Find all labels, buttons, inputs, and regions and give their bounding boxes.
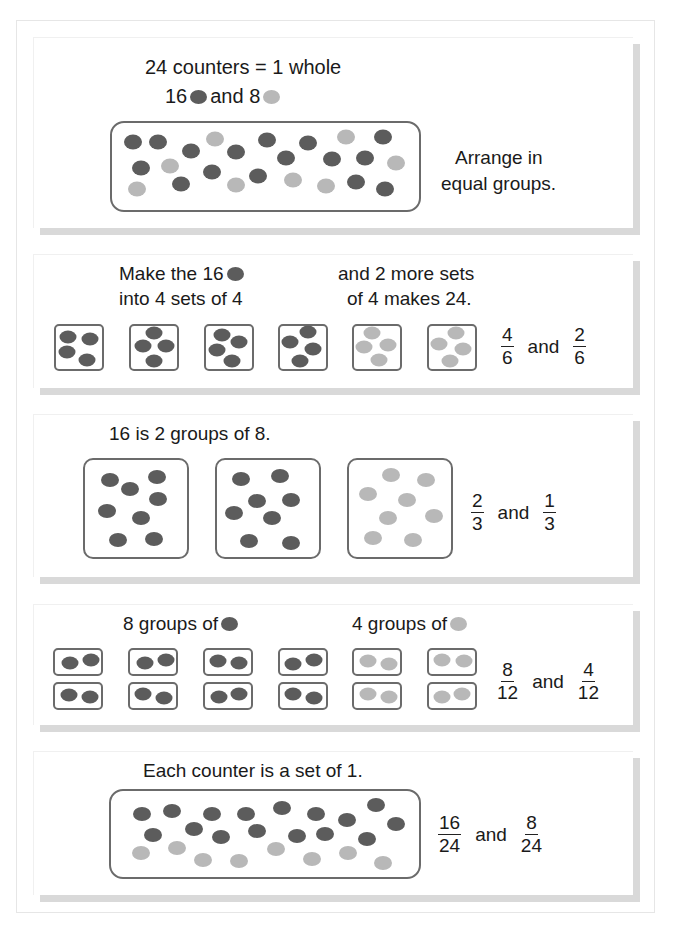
dark-counter-icon	[98, 504, 116, 518]
dark-counter-icon	[59, 346, 76, 359]
light-counter-icon	[267, 842, 285, 856]
light-counter-icon	[380, 339, 397, 352]
subtitle-count-dark: 16	[165, 85, 187, 107]
dark-counter-icon	[285, 688, 302, 701]
dark-counter-icon	[124, 135, 142, 150]
subtitle-count-light: and 8	[210, 85, 260, 107]
dark-counter-icon	[323, 152, 341, 167]
left-line1-text: Make the 16	[119, 263, 224, 284]
section3-fractions: 23 and 13	[471, 491, 556, 534]
dark-counter-icon	[273, 801, 291, 815]
dark-counter-icon	[356, 151, 374, 166]
dark-counter-icon	[211, 691, 228, 704]
section2-left-line2: into 4 sets of 4	[119, 287, 243, 311]
dark-counter-icon	[158, 340, 175, 353]
dark-counter-icon	[374, 130, 392, 145]
fraction-dark: 1624	[438, 813, 461, 856]
dark-counter-icon	[163, 804, 181, 818]
left-label-text: 8 groups of	[123, 613, 218, 634]
dark-counter-icon	[62, 657, 79, 670]
light-counter-icon	[317, 179, 335, 194]
dark-counter-icon	[240, 534, 258, 548]
dark-counter-icon	[387, 817, 405, 831]
light-counter-icon	[128, 182, 146, 197]
fraction-light: 412	[578, 660, 599, 703]
dark-counter-icon	[82, 333, 99, 346]
dark-counter-icon	[145, 532, 163, 546]
dark-counter-icon	[132, 511, 150, 525]
dark-counter-icon	[149, 135, 167, 150]
light-counter-icon	[456, 655, 473, 668]
dark-counter-icon	[248, 824, 266, 838]
dark-counter-icon	[82, 691, 99, 704]
dark-counter-icon	[232, 472, 250, 486]
dark-counter-icon	[292, 355, 309, 368]
dark-counter-icon	[307, 807, 325, 821]
dark-counter-icon	[132, 161, 150, 176]
fraction-dark: 812	[497, 660, 518, 703]
dark-counter-icon	[227, 145, 245, 160]
dark-counter-icon	[285, 658, 302, 671]
light-counter-icon	[382, 468, 400, 482]
dark-counter-icon	[306, 654, 323, 667]
light-counter-icon	[168, 841, 186, 855]
light-counter-icon	[132, 846, 150, 860]
dark-counter-icon	[109, 533, 127, 547]
light-counter-icon	[359, 487, 377, 501]
light-counter-icon	[360, 655, 377, 668]
dark-counter-icon	[135, 340, 152, 353]
light-counter-icon	[360, 688, 377, 701]
dark-counter-icon	[121, 482, 139, 496]
dark-counter-icon	[146, 355, 163, 368]
dark-counter-icon	[60, 331, 77, 344]
dark-counter-icon	[299, 136, 317, 151]
dark-counter-icon	[182, 144, 200, 159]
and-label: and	[498, 502, 530, 524]
dark-counter-icon	[227, 267, 244, 281]
light-counter-icon	[379, 511, 397, 525]
section2-left-line1: Make the 16	[119, 262, 247, 286]
light-counter-icon	[374, 856, 392, 870]
dark-counter-icon	[101, 473, 119, 487]
dark-counter-icon	[305, 343, 322, 356]
dark-counter-icon	[316, 827, 334, 841]
dark-counter-icon	[224, 355, 241, 368]
dark-counter-icon	[347, 175, 365, 190]
dark-counter-icon	[83, 654, 100, 667]
section2-right-line2: of 4 makes 24.	[347, 287, 472, 311]
side-text-line2: equal groups.	[441, 172, 556, 196]
light-counter-icon	[450, 617, 467, 631]
dark-counter-icon	[133, 807, 151, 821]
fraction-light: 824	[521, 813, 542, 856]
light-counter-icon	[371, 354, 388, 367]
light-counter-icon	[194, 853, 212, 867]
light-counter-icon	[387, 156, 405, 171]
dark-counter-icon	[146, 327, 163, 340]
light-counter-icon	[425, 509, 443, 523]
dark-counter-icon	[367, 798, 385, 812]
fraction-light: 26	[573, 325, 586, 368]
light-counter-icon	[431, 338, 448, 351]
dark-counter-icon	[158, 654, 175, 667]
section4-right-label: 4 groups of	[352, 612, 470, 636]
light-counter-icon	[230, 854, 248, 868]
dark-counter-icon	[172, 177, 190, 192]
and-label: and	[475, 824, 507, 846]
light-counter-icon	[206, 132, 224, 147]
side-text-line1: Arrange in	[455, 146, 543, 170]
section5-fractions: 1624 and 824	[438, 813, 542, 856]
dark-counter-icon	[277, 151, 295, 166]
light-counter-icon	[381, 658, 398, 671]
light-counter-icon	[434, 654, 451, 667]
section5-title: Each counter is a set of 1.	[143, 759, 363, 783]
dark-counter-icon	[212, 830, 230, 844]
dark-counter-icon	[135, 688, 152, 701]
dark-counter-icon	[190, 90, 207, 104]
right-label-text: 4 groups of	[352, 613, 447, 634]
dark-counter-icon	[288, 829, 306, 843]
dark-counter-icon	[300, 326, 317, 339]
fraction-light: 13	[543, 491, 556, 534]
light-counter-icon	[381, 691, 398, 704]
dark-counter-icon	[137, 657, 154, 670]
dark-counter-icon	[231, 336, 248, 349]
